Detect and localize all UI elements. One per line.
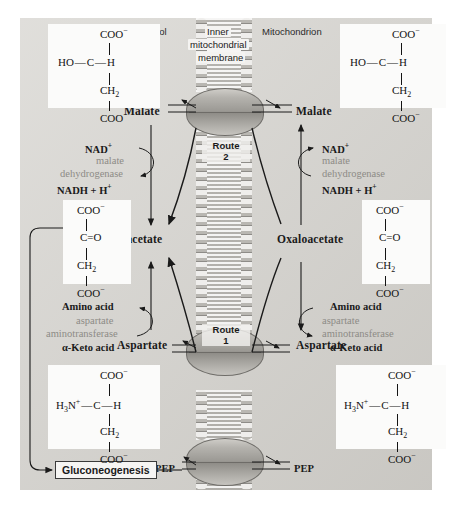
malate-r-top: COO−	[392, 26, 420, 40]
oaa-r-bottom: COO−	[376, 285, 404, 299]
asp-r-top: COO−	[388, 367, 416, 381]
mito-nad-charge: +	[345, 141, 349, 150]
malate-r-c2: HO — C — H	[350, 56, 407, 68]
membrane-label-line2: mitochondrial	[188, 39, 249, 50]
malate-r-bottom: COO−	[392, 110, 420, 124]
mitochondrion-nadh-label: NADH + H+	[322, 182, 377, 196]
asp-l-c3: CH2	[100, 425, 119, 440]
route-1-label: Route 1	[202, 324, 250, 346]
cytosol-amino-acid-label: Amino acid	[62, 301, 114, 312]
cytosol-nadh-label: NADH + H+	[57, 182, 112, 196]
cytosol-aspartate-label: Aspartate	[117, 339, 167, 351]
cytosol-mdh-line2: dehydrogenase	[60, 168, 123, 179]
mitochondrion-malate-label: Malate	[296, 105, 332, 117]
oaa-r-c3: CH2	[376, 259, 395, 274]
route-1-name: Route	[213, 324, 240, 335]
membrane-label-line3: membrane	[196, 52, 245, 63]
structure-aspartate-mitochondrion: COO− H3N+ — C — H CH2 COO−	[336, 365, 446, 449]
asp-l-bottom: COO−	[100, 451, 128, 465]
oaa-l-c2: C=O	[80, 231, 102, 243]
mito-nadh-text: NADH + H	[322, 185, 372, 196]
mitochondrion-nad-label: NAD+	[322, 141, 349, 155]
structure-oxaloacetate-mitochondrion: COO− C=O CH2 COO−	[362, 200, 430, 284]
mitochondrion-ast-line2: aminotransferase	[322, 328, 394, 339]
asp-r-c2: H3N+ — C — H	[344, 397, 409, 414]
route-1-number: 1	[223, 335, 228, 346]
oaa-l-c3: CH2	[77, 259, 96, 274]
route-2-label: Route 2	[202, 140, 250, 162]
structure-malate-cytosol: COO− HO — C — H CH2 COO−	[48, 24, 160, 108]
malate-l-c3: CH2	[100, 84, 119, 99]
structure-aspartate-cytosol: COO− H3N+ — C — H CH2 COO−	[48, 365, 160, 449]
membrane-label-line1: Inner	[205, 26, 231, 37]
cytosol-mdh-line1: malate	[96, 155, 124, 166]
structure-malate-mitochondrion: COO− HO — C — H CH2 COO−	[340, 24, 446, 108]
mitochondrion-ast-line1: aspartate	[322, 315, 359, 326]
oaa-r-top: COO−	[376, 202, 404, 216]
mitochondrion-pep-label: PEP	[294, 463, 314, 474]
cytosol-keto-acid-label: α-Keto acid	[62, 342, 114, 353]
route-2-number: 2	[223, 151, 228, 162]
malate-l-bottom: COO−	[100, 110, 128, 124]
mitochondrion-oxaloacetate-label: Oxaloacetate	[277, 233, 343, 245]
cytosol-nad-charge: +	[108, 141, 112, 150]
asp-l-c2: H3N+ — C — H	[56, 397, 121, 414]
cytosol-nadh-text: NADH + H	[57, 185, 107, 196]
mitochondrion-mdh-line2: dehydrogenase	[322, 168, 385, 179]
mitochondrion-keto-acid-label: α-Keto acid	[330, 342, 382, 353]
malate-l-top: COO−	[100, 26, 128, 40]
structure-oxaloacetate-cytosol: COO− C=O CH2 COO−	[63, 200, 131, 284]
asp-r-c3: CH2	[388, 425, 407, 440]
asp-l-top: COO−	[100, 367, 128, 381]
cytosol-pep-label: PEP	[155, 463, 175, 474]
mito-nad-text: NAD	[322, 144, 345, 155]
malate-r-c3: CH2	[392, 84, 411, 99]
mitochondrion-amino-acid-label: Amino acid	[330, 301, 382, 312]
cytosol-nad-label: NAD+	[85, 141, 112, 155]
cytosol-nad-text: NAD	[85, 144, 108, 155]
mitochondrion-mdh-line1: malate	[322, 155, 350, 166]
oaa-r-c2: C=O	[379, 231, 401, 243]
cytosol-ast-line1: aspartate	[76, 315, 113, 326]
asp-r-bottom: COO−	[388, 451, 416, 465]
malate-l-c2: HO — C — H	[58, 56, 115, 68]
route-2-name: Route	[213, 140, 240, 151]
cytosol-nadh-charge: +	[107, 182, 111, 191]
region-label-mitochondrion: Mitochondrion	[262, 26, 322, 37]
oaa-l-top: COO−	[77, 202, 105, 216]
mito-nadh-charge: +	[372, 182, 376, 191]
oaa-l-bottom: COO−	[77, 285, 105, 299]
cytosol-ast-line2: aminotransferase	[46, 328, 118, 339]
